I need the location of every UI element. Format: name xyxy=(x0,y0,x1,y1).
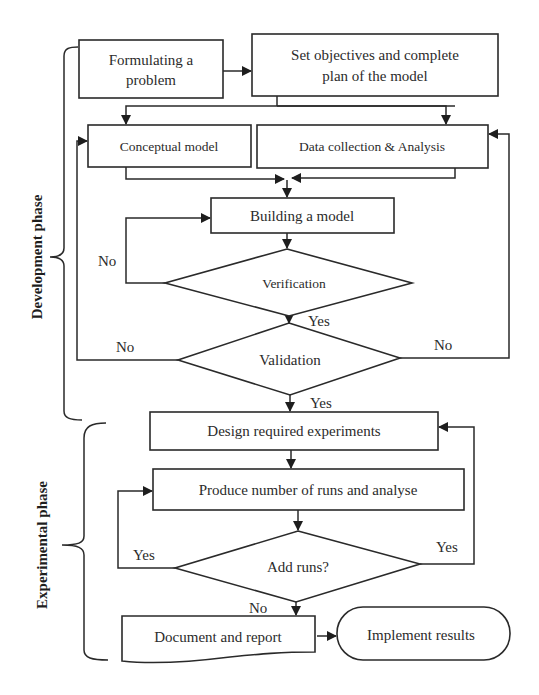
label-add-runs-yes-left: Yes xyxy=(133,547,155,563)
node-formulate-problem: Formulating a problem xyxy=(79,40,223,98)
node-conceptual-label: Conceptual model xyxy=(120,139,219,154)
label-validation-no-left: No xyxy=(116,339,134,355)
node-objectives-line1: Set objectives and complete xyxy=(291,47,459,63)
label-verification-yes: Yes xyxy=(308,313,330,329)
node-validation-decision: Validation xyxy=(178,323,400,395)
node-produce-runs: Produce number of runs and analyse xyxy=(153,469,464,510)
edge-validation-no-left xyxy=(77,141,178,360)
edge-to-data-collection xyxy=(277,106,446,124)
node-validation-label: Validation xyxy=(259,352,321,368)
edge-to-conceptual xyxy=(126,106,455,124)
node-formulate-line1: Formulating a xyxy=(109,52,194,68)
label-validation-yes: Yes xyxy=(310,395,332,411)
node-implement-results: Implement results xyxy=(337,607,510,660)
node-building-model: Building a model xyxy=(211,198,394,233)
node-document-label: Document and report xyxy=(154,629,282,645)
node-conceptual-model: Conceptual model xyxy=(88,125,251,167)
node-set-objectives: Set objectives and complete plan of the … xyxy=(252,34,498,96)
node-data-collection-label: Data collection & Analysis xyxy=(299,139,445,154)
flowchart-diagram: Development phase Experimental phase For… xyxy=(0,0,539,695)
label-validation-no-right: No xyxy=(434,337,452,353)
node-design-experiments: Design required experiments xyxy=(150,412,438,450)
edge-data-merge xyxy=(292,168,455,178)
label-add-runs-no: No xyxy=(249,600,267,616)
node-verification-decision: Verification xyxy=(165,249,412,316)
experimental-phase-brace xyxy=(62,423,108,660)
node-formulate-line2: problem xyxy=(126,72,176,88)
node-produce-label: Produce number of runs and analyse xyxy=(199,482,418,498)
experimental-phase-label: Experimental phase xyxy=(34,481,50,609)
node-data-collection: Data collection & Analysis xyxy=(257,125,488,168)
node-building-label: Building a model xyxy=(250,208,354,224)
node-design-label: Design required experiments xyxy=(207,423,380,439)
node-objectives-line2: plan of the model xyxy=(322,68,427,84)
development-phase-label: Development phase xyxy=(29,194,45,319)
label-verification-no: No xyxy=(98,253,116,269)
node-add-runs-decision: Add runs? xyxy=(175,531,420,602)
node-implement-label: Implement results xyxy=(367,627,475,643)
node-document-report: Document and report xyxy=(122,616,315,662)
node-verification-label: Verification xyxy=(262,276,326,291)
edge-conceptual-merge xyxy=(126,167,284,179)
node-add-runs-label: Add runs? xyxy=(267,559,329,575)
label-add-runs-yes-right: Yes xyxy=(436,539,458,555)
